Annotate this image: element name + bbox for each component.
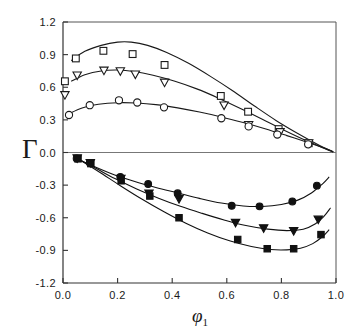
marker-filled-square [235, 236, 241, 242]
y-tick-label: -0.6 [35, 212, 56, 224]
marker-filled-triangle-down [231, 219, 239, 227]
x-tick-label: 0.2 [109, 289, 126, 301]
fit-curve-filled-triangle-lower [77, 158, 330, 230]
marker-filled-square [118, 178, 124, 184]
y-tick-label: 0.6 [40, 81, 57, 93]
marker-open-circle [134, 99, 141, 106]
marker-open-triangle-down [131, 71, 139, 79]
marker-open-circle [65, 111, 72, 118]
marker-open-circle [274, 131, 281, 138]
series-filled-circle-lower [73, 155, 320, 210]
y-tick-label: -0.9 [35, 244, 56, 256]
x-axis-ticks [63, 278, 336, 283]
marker-open-square [245, 108, 252, 115]
x-tick-label: 1.0 [328, 289, 345, 301]
marker-filled-square [147, 193, 153, 199]
y-axis-label: Γ [22, 134, 38, 164]
series-filled-triangle-lower [73, 155, 322, 235]
marker-filled-circle [313, 182, 320, 189]
marker-filled-circle [289, 198, 296, 205]
marker-open-circle [218, 115, 225, 122]
y-tick-label: 0.9 [40, 49, 57, 61]
fit-curve-open-triangle-upper [71, 70, 333, 152]
marker-filled-square [290, 246, 296, 252]
gamma-vs-phi-plot: 1.20.90.60.30.0-0.3-0.6-0.9-1.2 0.00.20.… [0, 0, 360, 330]
y-axis-ticks [63, 22, 68, 283]
marker-open-square [72, 55, 79, 62]
marker-open-triangle-down [73, 72, 81, 80]
fitted-curves [68, 42, 333, 250]
x-tick-label: 0.0 [55, 289, 72, 301]
marker-open-square [129, 51, 136, 58]
marker-filled-circle [145, 181, 152, 188]
marker-open-circle [115, 97, 122, 104]
y-axis-tick-labels: 1.20.90.60.30.0-0.3-0.6-0.9-1.2 [35, 16, 56, 289]
marker-open-triangle-down [116, 68, 124, 76]
series-open-circle-upper [65, 97, 311, 148]
marker-open-triangle-down [160, 79, 168, 87]
marker-filled-triangle-down [175, 195, 183, 203]
marker-filled-triangle-down [289, 228, 297, 236]
x-axis-tick-labels: 0.00.20.40.60.81.0 [55, 289, 345, 301]
y-tick-label: 0.0 [40, 147, 57, 159]
x-axis-label: φ1 [192, 305, 208, 328]
chart-figure: 1.20.90.60.30.0-0.3-0.6-0.9-1.2 0.00.20.… [0, 0, 360, 330]
marker-open-circle [86, 102, 93, 109]
x-tick-label: 0.6 [219, 289, 236, 301]
marker-filled-square [264, 246, 270, 252]
y-tick-label: -0.3 [35, 179, 56, 191]
marker-open-square [100, 47, 107, 54]
data-point-markers [61, 47, 324, 252]
marker-open-circle [305, 141, 312, 148]
marker-open-square [62, 78, 69, 85]
phi-subscript: 1 [203, 316, 209, 328]
marker-filled-square [88, 160, 94, 166]
marker-filled-circle [228, 202, 235, 209]
y-tick-label: 1.2 [40, 16, 57, 28]
x-tick-label: 0.4 [164, 289, 181, 301]
marker-filled-circle [256, 203, 263, 210]
marker-open-circle [160, 104, 167, 111]
y-tick-label: 0.3 [40, 114, 57, 126]
y-tick-label: -1.2 [35, 277, 56, 289]
marker-open-square [161, 62, 168, 69]
marker-open-circle [245, 123, 252, 130]
fit-curve-open-circle-upper [68, 103, 333, 152]
marker-filled-square [176, 215, 182, 221]
marker-open-square [217, 93, 224, 100]
marker-filled-square [75, 156, 81, 162]
marker-open-triangle-down [61, 92, 69, 100]
x-tick-label: 0.8 [273, 289, 290, 301]
marker-filled-square [318, 231, 324, 237]
marker-open-triangle-down [220, 102, 228, 110]
phi-symbol: φ [192, 305, 203, 326]
